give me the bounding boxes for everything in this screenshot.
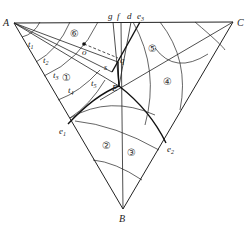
label-o: o bbox=[82, 47, 87, 57]
region-5: ⑤ bbox=[148, 43, 157, 54]
label-A: A bbox=[2, 17, 10, 28]
arcs-right bbox=[133, 22, 225, 125]
arcs-bottom bbox=[70, 106, 159, 180]
label-e3: e3 bbox=[137, 11, 144, 22]
point-o bbox=[82, 42, 86, 46]
label-g: g bbox=[108, 11, 113, 21]
label-B: B bbox=[119, 213, 125, 224]
diagram-canvas: A C B E q o s g f d e3 e1 e2 t1 t2 t3 t4… bbox=[0, 0, 250, 228]
label-t2: t2 bbox=[43, 55, 49, 66]
label-q: q bbox=[120, 55, 125, 65]
label-d: d bbox=[127, 11, 132, 21]
label-t3: t3 bbox=[53, 70, 59, 81]
label-t4: t4 bbox=[68, 85, 74, 96]
label-e2: e2 bbox=[167, 144, 174, 155]
region-3: ③ bbox=[127, 147, 136, 158]
label-f: f bbox=[117, 11, 121, 21]
label-C: C bbox=[237, 17, 244, 28]
region-4: ④ bbox=[163, 76, 172, 87]
median-line-B bbox=[121, 22, 123, 209]
label-t1: t1 bbox=[28, 39, 34, 50]
label-e1: e1 bbox=[59, 126, 66, 137]
label-t5: t5 bbox=[91, 78, 97, 89]
region-2: ② bbox=[102, 140, 111, 151]
region-1: ① bbox=[62, 72, 71, 83]
label-s: s bbox=[104, 63, 107, 72]
label-E: E bbox=[111, 83, 118, 93]
ternary-diagram: A C B E q o s g f d e3 e1 e2 t1 t2 t3 t4… bbox=[0, 0, 250, 228]
region-6: ⑥ bbox=[70, 28, 79, 39]
